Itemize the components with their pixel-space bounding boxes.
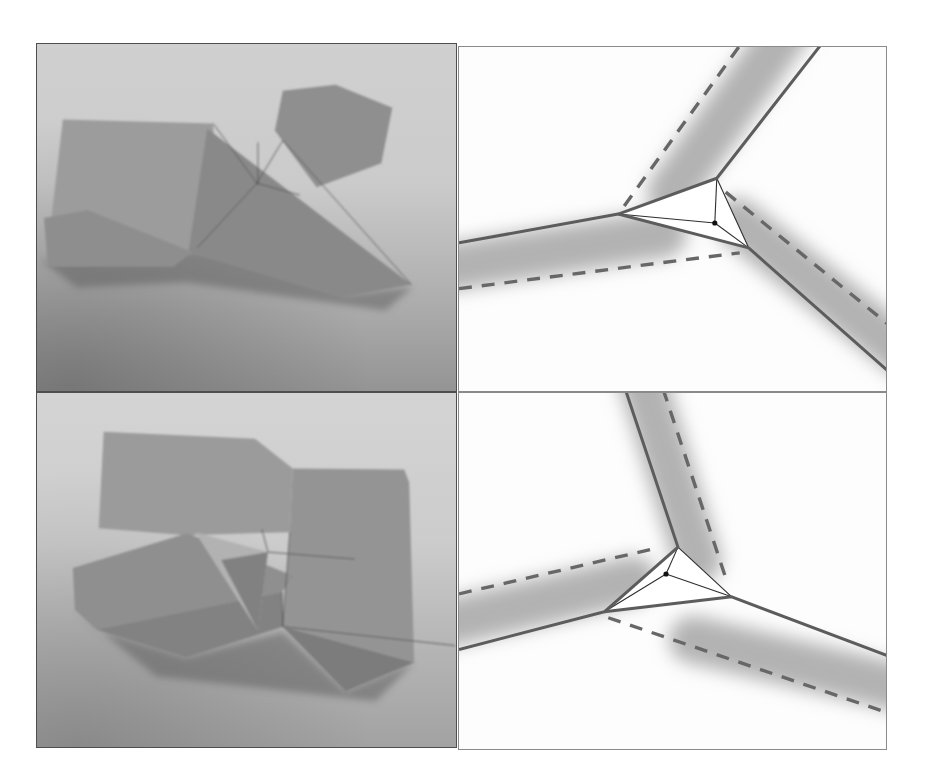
paper-top-right-wing (275, 85, 392, 187)
diagram-panel-bottom-right (458, 392, 887, 750)
shaded-band-lower-right-arm (738, 222, 886, 353)
origami-photo-2 (37, 393, 456, 747)
diagram-panel-top-right (458, 46, 887, 392)
paper-back-sheet (99, 432, 293, 535)
shaded-band-left-arm (459, 234, 663, 268)
photo-panel-top-left (36, 43, 457, 392)
figure-grid (0, 0, 926, 784)
photo-panel-bottom-left (36, 392, 457, 748)
shaded-band-upper-arm (671, 47, 787, 192)
vertex-dot (663, 571, 668, 576)
crease-diagram-1 (459, 47, 886, 391)
vertex-dot (712, 220, 717, 225)
crease-diagram-2 (459, 393, 886, 749)
shaded-band-upper-arm (640, 393, 698, 560)
origami-photo-1 (37, 44, 456, 391)
